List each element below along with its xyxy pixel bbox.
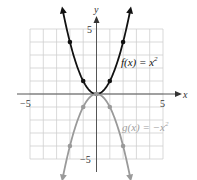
arrow-icon <box>60 174 67 180</box>
data-point <box>108 105 113 110</box>
coordinate-plane: x y −5 5 5 −5 f(x) = x2 g(x) = −x2 <box>0 0 197 180</box>
arrow-icon <box>126 174 133 180</box>
data-point <box>121 144 126 149</box>
arrow-icon <box>126 7 133 15</box>
x-axis-label: x <box>182 89 188 100</box>
data-point <box>68 40 73 45</box>
y-axis-label: y <box>93 4 99 15</box>
data-point <box>81 79 86 84</box>
x-tick-min: −5 <box>20 98 31 109</box>
arrow-icon <box>60 7 67 15</box>
x-axis-arrow-icon <box>175 91 182 97</box>
y-tick-max: 5 <box>87 24 92 35</box>
x-tick-max: 5 <box>160 98 165 109</box>
y-axis-arrow-icon <box>94 16 100 23</box>
data-point <box>94 92 99 97</box>
data-point <box>108 79 113 84</box>
y-tick-min: −5 <box>80 154 91 165</box>
data-point <box>81 105 86 110</box>
data-point <box>68 144 73 149</box>
data-point <box>121 40 126 45</box>
g-label: g(x) = −x2 <box>122 120 169 134</box>
f-label: f(x) = x2 <box>121 55 158 69</box>
